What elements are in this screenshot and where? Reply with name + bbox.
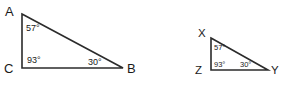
vertex-label-x: X	[198, 27, 206, 39]
angle-label-b-30: 30°	[88, 57, 102, 67]
similar-triangles-figure: A C B 57° 93° 30° X Z Y 57° 93° 30°	[0, 0, 287, 89]
angle-label-x-57: 57°	[214, 43, 225, 52]
angle-label-a-57: 57°	[26, 23, 40, 33]
angle-label-c-93: 93°	[27, 55, 41, 65]
vertex-label-a: A	[5, 4, 14, 19]
angle-label-y-30: 30°	[240, 60, 251, 69]
angle-label-z-93: 93°	[214, 60, 225, 69]
vertex-label-c: C	[4, 61, 13, 76]
figure-background	[0, 0, 287, 89]
vertex-label-y: Y	[271, 64, 279, 76]
vertex-label-b: B	[127, 61, 136, 76]
vertex-label-z: Z	[195, 64, 202, 76]
